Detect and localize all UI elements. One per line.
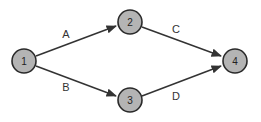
node-2-label: 2 bbox=[127, 17, 133, 28]
node-4-label: 4 bbox=[232, 56, 238, 67]
network-diagram: A B C D 1 2 3 4 bbox=[0, 0, 261, 122]
node-2: 2 bbox=[118, 10, 142, 34]
node-1-label: 1 bbox=[21, 56, 27, 67]
edge-label-a: A bbox=[62, 28, 70, 40]
edge-label-d: D bbox=[172, 90, 180, 102]
node-3-label: 3 bbox=[127, 95, 133, 106]
edge-label-c: C bbox=[172, 23, 180, 35]
edge-a bbox=[36, 26, 116, 56]
node-1: 1 bbox=[12, 49, 36, 73]
edge-d bbox=[142, 66, 221, 96]
edge-b bbox=[36, 66, 116, 96]
node-3: 3 bbox=[118, 88, 142, 112]
edge-c bbox=[142, 27, 221, 56]
edge-label-b: B bbox=[62, 81, 69, 93]
node-4: 4 bbox=[223, 49, 247, 73]
